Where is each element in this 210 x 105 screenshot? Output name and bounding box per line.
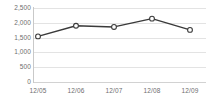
line-chart: 2,500 2,000 1,500 1,000 500 0 12/05 12/0… <box>0 0 210 105</box>
data-point-marker <box>188 28 193 33</box>
data-point-marker <box>112 25 117 30</box>
data-point-marker <box>74 23 79 28</box>
data-series-layer <box>0 0 210 105</box>
data-point-marker <box>36 34 41 39</box>
series-markers <box>36 16 193 39</box>
data-point-marker <box>150 16 155 21</box>
